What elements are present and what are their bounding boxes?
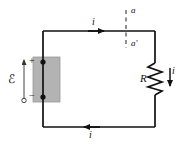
emf-reference-node xyxy=(22,98,26,102)
resistor-zigzag xyxy=(148,63,162,95)
node-label-a-prime: a′ xyxy=(131,39,137,48)
terminal-sign-positive: + xyxy=(29,56,35,66)
current-label-resistor: i xyxy=(172,66,175,76)
node-label-a: a xyxy=(131,6,136,15)
emf-label: ℰ xyxy=(8,73,15,85)
emf-source-body xyxy=(33,57,60,102)
terminal-dot-negative xyxy=(40,94,45,99)
resistor-label: R xyxy=(140,73,147,84)
terminal-sign-negative: − xyxy=(29,91,35,101)
current-label-bottom: i xyxy=(89,130,92,140)
terminal-dot-positive xyxy=(40,59,45,64)
current-label-top: i xyxy=(92,17,95,27)
figure-canvas: i i i R ℰ a a′ + − xyxy=(0,0,180,152)
